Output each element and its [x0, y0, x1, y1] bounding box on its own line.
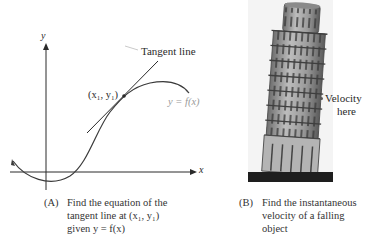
caption-a-tag: (A): [44, 196, 59, 209]
caption-a-line-1: Find the equation of the: [67, 196, 167, 209]
point-label: (x₁, y₁): [88, 89, 118, 100]
y-axis-arrow-icon: [43, 43, 49, 50]
panel-b-falling-object: Velocity here (B) Find the instantaneous…: [220, 0, 374, 245]
x-axis-label: x: [199, 164, 203, 175]
caption-b-line-2: velocity of a falling: [262, 209, 357, 222]
y-axis-label: y: [41, 30, 45, 41]
tangent-line-label: Tangent line: [141, 45, 196, 57]
caption-a-line-2: tangent line at (x₁, y₁): [67, 209, 167, 222]
caption-b-line-3: object: [262, 222, 357, 235]
x-axis-arrow-icon: [190, 169, 197, 175]
velocity-label-line-1: Velocity: [325, 92, 362, 104]
tangent-label-leader: [125, 46, 138, 50]
tangent-point: [122, 94, 126, 98]
caption-b-line-1: Find the instantaneous: [262, 196, 357, 209]
caption-a: (A) Find the equation of the tangent lin…: [44, 196, 214, 241]
curve-label: y = f(x): [168, 96, 200, 107]
caption-b-tag: (B): [239, 196, 253, 209]
caption-a-line-3: given y = f(x): [67, 222, 167, 235]
curve-end-arrow-icon: [184, 88, 189, 94]
caption-b: (B) Find the instantaneous velocity of a…: [239, 196, 374, 241]
velocity-marker-dot: [320, 97, 323, 100]
caption-a-text: Find the equation of the tangent line at…: [67, 196, 167, 235]
caption-b-text: Find the instantaneous velocity of a fal…: [262, 196, 357, 235]
panel-a-tangent-diagram: y x Tangent line (x₁, y₁) y = f(x) (A) F…: [0, 0, 220, 245]
velocity-label-line-2: here: [337, 105, 356, 117]
